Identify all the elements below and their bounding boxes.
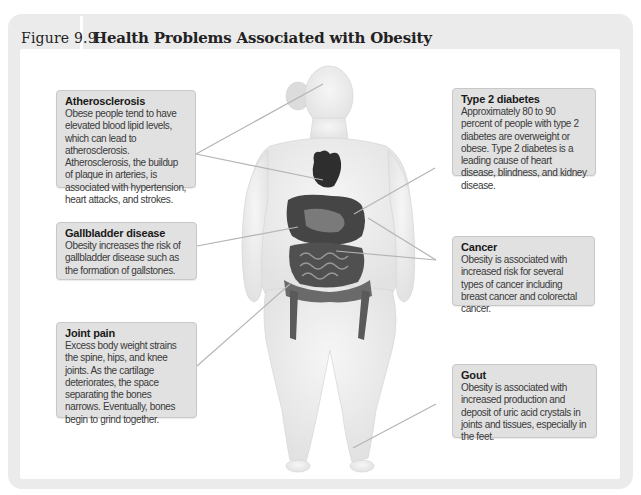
callout-body: Excess body weight strains the spine, hi… [65, 340, 189, 426]
callout-title: Gallbladder disease [65, 227, 189, 240]
callout-body: Obesity is associated with increased ris… [461, 254, 587, 315]
callout-type2-diabetes: Type 2 diabetes Approximately 80 to 90 p… [452, 88, 596, 176]
callout-title: Atherosclerosis [65, 95, 188, 108]
callout-gallbladder-disease: Gallbladder disease Obesity increases th… [56, 222, 197, 280]
callout-body: Obese people tend to have elevated blood… [65, 108, 188, 206]
callout-title: Gout [461, 369, 589, 382]
callout-body: Obesity increases the risk of gallbladde… [65, 240, 189, 277]
callout-joint-pain: Joint pain Excess body weight strains th… [56, 322, 197, 418]
callout-title: Joint pain [65, 327, 189, 340]
callout-title: Type 2 diabetes [461, 93, 588, 106]
callout-gout: Gout Obesity is associated with increase… [452, 364, 597, 438]
callout-cancer: Cancer Obesity is associated with increa… [452, 236, 595, 306]
callout-atherosclerosis: Atherosclerosis Obese people tend to hav… [56, 90, 196, 188]
callout-title: Cancer [461, 241, 587, 254]
callout-body: Obesity is associated with increased pro… [461, 382, 589, 443]
callout-body: Approximately 80 to 90 percent of people… [461, 106, 588, 192]
